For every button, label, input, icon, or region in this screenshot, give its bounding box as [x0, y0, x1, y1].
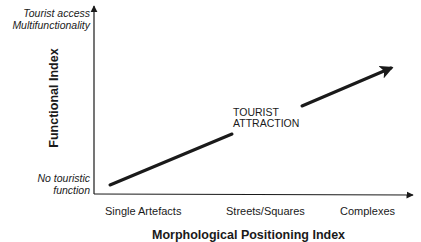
y-axis-bottom-label-line-2: function: [37, 184, 90, 196]
x-axis-line: [94, 194, 413, 195]
tourist-attraction-annotation: TOURIST ATTRACTION: [233, 107, 299, 128]
x-tick-complexes: Complexes: [340, 206, 395, 217]
y-axis-top-label: Tourist access Multifunctionality: [12, 7, 90, 31]
y-axis-bottom-label: No touristic function: [37, 172, 90, 196]
trend-line-segment-2: [302, 68, 391, 106]
annotation-line-2: ATTRACTION: [233, 118, 299, 129]
x-tick-single-artefacts: Single Artefacts: [105, 206, 181, 217]
y-axis-title: Functional Index: [48, 48, 61, 147]
diagram: Tourist access Multifunctionality Functi…: [0, 0, 421, 242]
x-axis-title: Morphological Positioning Index: [152, 229, 345, 242]
trend-line-segment-1: [110, 134, 232, 185]
y-axis-top-label-line-2: Multifunctionality: [12, 19, 90, 31]
y-axis-bottom-label-line-1: No touristic: [37, 172, 90, 184]
y-axis-top-label-line-1: Tourist access: [12, 7, 90, 19]
x-tick-streets-squares: Streets/Squares: [226, 206, 305, 217]
annotation-line-1: TOURIST: [233, 107, 299, 118]
